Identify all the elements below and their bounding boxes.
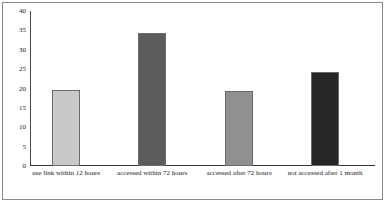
x-axis-category-label: accessed within 72 hours	[106, 169, 198, 179]
bar	[225, 91, 253, 166]
x-axis-category-labels: use link within 12 hoursaccessed within …	[30, 169, 375, 199]
y-axis-tick-label: 20	[19, 85, 26, 92]
y-axis-tick-label: 25	[19, 66, 26, 73]
x-axis-category-label: not accessed after 1 month	[279, 169, 371, 179]
bar-chart-figure: 0510152025303540 use link within 12 hour…	[0, 0, 386, 203]
y-axis-tick-label: 5	[23, 143, 27, 150]
bar-series	[30, 11, 375, 166]
y-axis-tick-label: 15	[19, 104, 26, 111]
y-axis-tick-label: 10	[19, 124, 26, 131]
bar	[52, 90, 80, 166]
y-axis-tick-label: 35	[19, 27, 26, 34]
x-axis-category-label: use link within 12 hours	[20, 169, 112, 179]
y-axis-tick-label: 30	[19, 46, 26, 53]
bar	[138, 33, 166, 166]
x-axis-category-label: accessed after 72 hours	[193, 169, 285, 179]
y-axis-tick-label: 40	[19, 8, 26, 15]
bar	[311, 72, 339, 166]
